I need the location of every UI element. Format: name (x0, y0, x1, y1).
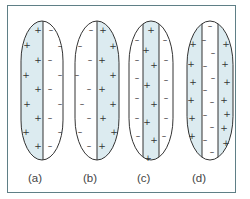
cell-d: +++++++++++++–––––––––––(d) (187, 21, 233, 184)
minus-charge: – (48, 55, 53, 65)
minus-charge: – (164, 55, 169, 65)
plus-charge: + (34, 25, 42, 35)
minus-charge: – (203, 110, 208, 120)
plus-charge: + (23, 40, 31, 50)
minus-charge: – (88, 55, 93, 65)
minus-charge: – (135, 93, 140, 103)
plus-charge: + (150, 99, 158, 109)
minus-charge: – (135, 35, 140, 45)
minus-charge: – (203, 85, 208, 95)
plus-charge: + (188, 131, 196, 141)
minus-charge: – (49, 25, 54, 35)
minus-charge: – (164, 93, 169, 103)
plus-charge: + (109, 70, 117, 80)
minus-charge: – (162, 131, 167, 141)
plus-charge: + (34, 113, 42, 123)
minus-charge: – (58, 70, 63, 80)
plus-charge: + (109, 99, 117, 109)
plus-charge: + (144, 153, 152, 163)
plus-charge: + (222, 138, 230, 148)
minus-charge: – (202, 35, 207, 45)
plus-charge: + (34, 84, 42, 94)
cell-a: +++++++++–––––––––(a) (21, 21, 63, 184)
plus-charge: + (189, 39, 197, 49)
plus-charge: + (223, 109, 231, 119)
minus-charge: – (135, 55, 140, 65)
minus-charge: – (58, 127, 63, 137)
plus-charge: + (99, 25, 107, 35)
minus-charge: – (48, 141, 53, 151)
cell-label-a: (a) (28, 172, 42, 184)
plus-charge: + (189, 77, 197, 87)
minus-charge: – (80, 99, 85, 109)
minus-charge: – (78, 41, 83, 51)
minus-charge: – (87, 84, 92, 94)
plus-charge: + (143, 80, 151, 90)
plus-charge: + (223, 77, 231, 87)
cell-polarization-diagram: +++++++++–––––––––(a)+++++++++–––––––––(… (0, 0, 250, 199)
minus-charge: – (89, 25, 94, 35)
minus-charge: – (211, 73, 216, 83)
minus-charge: – (203, 135, 208, 145)
minus-charge: – (135, 73, 140, 83)
plus-charge: + (220, 123, 228, 133)
minus-charge: – (48, 113, 53, 123)
plus-charge: + (150, 135, 158, 145)
cell-label-c: (c) (137, 172, 151, 184)
plus-charge: + (98, 141, 106, 151)
minus-charge: – (75, 70, 80, 80)
plus-charge: + (22, 70, 30, 80)
plus-charge: + (34, 55, 42, 65)
plus-charge: + (110, 127, 118, 137)
plus-charge: + (98, 84, 106, 94)
cell-b: +++++++++–––––––––(b) (75, 21, 119, 184)
cell-label-b: (b) (83, 172, 97, 184)
cell-c: ++++++++––––––––––––(c) (129, 21, 173, 184)
plus-charge: + (220, 95, 228, 105)
minus-charge: – (87, 141, 92, 151)
minus-charge: – (58, 41, 63, 51)
minus-charge: – (58, 99, 63, 109)
plus-charge: + (99, 113, 107, 123)
cell-label-d: (d) (192, 172, 206, 184)
plus-charge: + (147, 25, 155, 35)
plus-charge: + (23, 99, 31, 109)
minus-charge: – (78, 127, 83, 137)
plus-charge: + (188, 113, 196, 123)
minus-charge: – (210, 97, 215, 107)
plus-charge: + (150, 60, 158, 70)
plus-charge: + (109, 41, 117, 51)
plus-charge: + (143, 117, 151, 127)
minus-charge: – (163, 35, 168, 45)
plus-charge: + (221, 59, 229, 69)
minus-charge: – (203, 61, 208, 71)
minus-charge: – (211, 48, 216, 58)
plus-charge: + (222, 39, 230, 49)
minus-charge: – (210, 122, 215, 132)
minus-charge: – (164, 75, 169, 85)
plus-charge: + (34, 141, 42, 151)
plus-charge: + (98, 55, 106, 65)
plus-charge: + (142, 45, 150, 55)
minus-charge: – (136, 131, 141, 141)
minus-charge: – (210, 147, 215, 157)
minus-charge: – (87, 113, 92, 123)
minus-charge: – (135, 113, 140, 123)
minus-charge: – (208, 21, 213, 31)
plus-charge: + (187, 59, 195, 69)
plus-charge: + (22, 127, 30, 137)
plus-charge: + (187, 95, 195, 105)
minus-charge: – (48, 84, 53, 94)
minus-charge: – (164, 113, 169, 123)
